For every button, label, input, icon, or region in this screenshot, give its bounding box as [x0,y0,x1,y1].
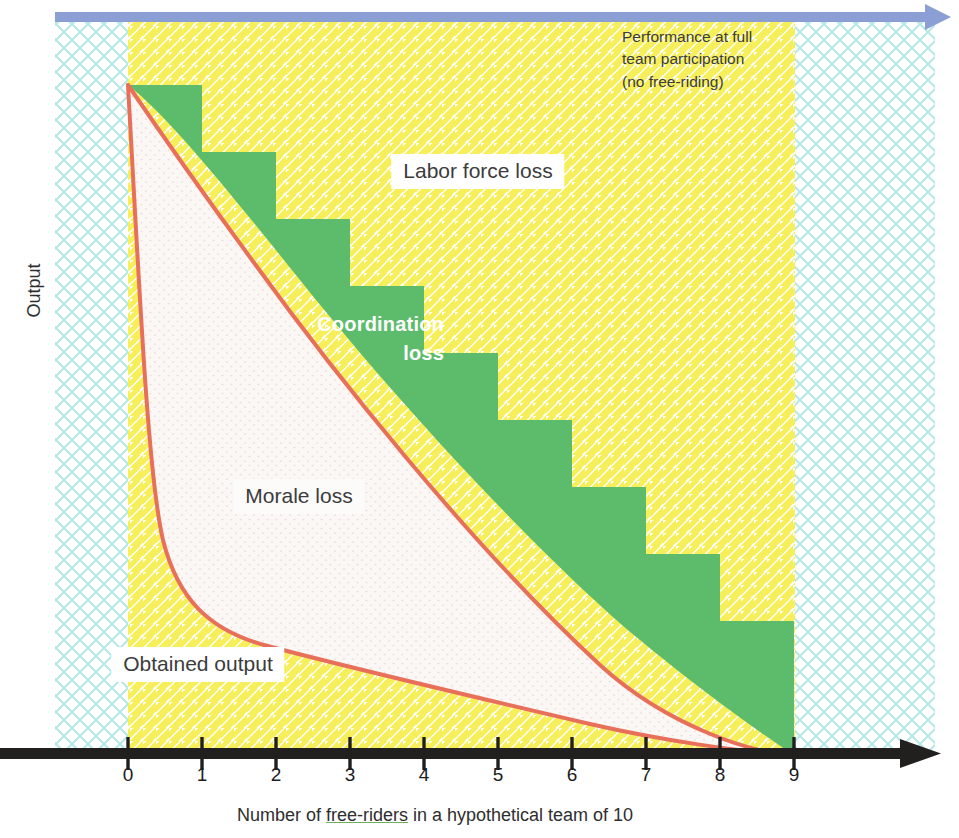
full-participation-note-line3: (no free-riding) [622,71,752,93]
x-axis-title-pre: Number of [237,805,326,825]
coordination-loss-line1: Coordination [317,310,444,339]
morale-loss-label: Morale loss [233,479,364,514]
x-tick-label: 8 [715,764,726,786]
x-axis-title-underlined: free-riders [326,805,408,825]
x-tick-label: 0 [123,764,134,786]
full-participation-note: Performance at full team participation (… [622,26,752,93]
chart-graphics [0,0,959,838]
full-participation-note-line2: team participation [622,48,752,70]
x-axis-title-post: in a hypothetical team of 10 [408,805,633,825]
x-axis-title: Number of free-riders in a hypothetical … [237,805,633,826]
process-loss-chart: Labor force loss Coordination loss Moral… [0,0,959,838]
full-participation-note-line1: Performance at full [622,26,752,48]
x-tick-label: 2 [271,764,282,786]
coordination-loss-label: Coordination loss [317,310,444,368]
x-tick-label: 1 [197,764,208,786]
coordination-loss-line2: loss [317,339,444,368]
labor-force-loss-label: Labor force loss [391,154,564,189]
y-axis-title: Output [24,251,45,331]
x-tick-label: 9 [789,764,800,786]
obtained-output-label: Obtained output [111,647,284,682]
x-tick-label: 3 [345,764,356,786]
x-tick-label: 6 [567,764,578,786]
x-tick-label: 4 [419,764,430,786]
x-tick-label: 5 [493,764,504,786]
x-tick-label: 7 [641,764,652,786]
